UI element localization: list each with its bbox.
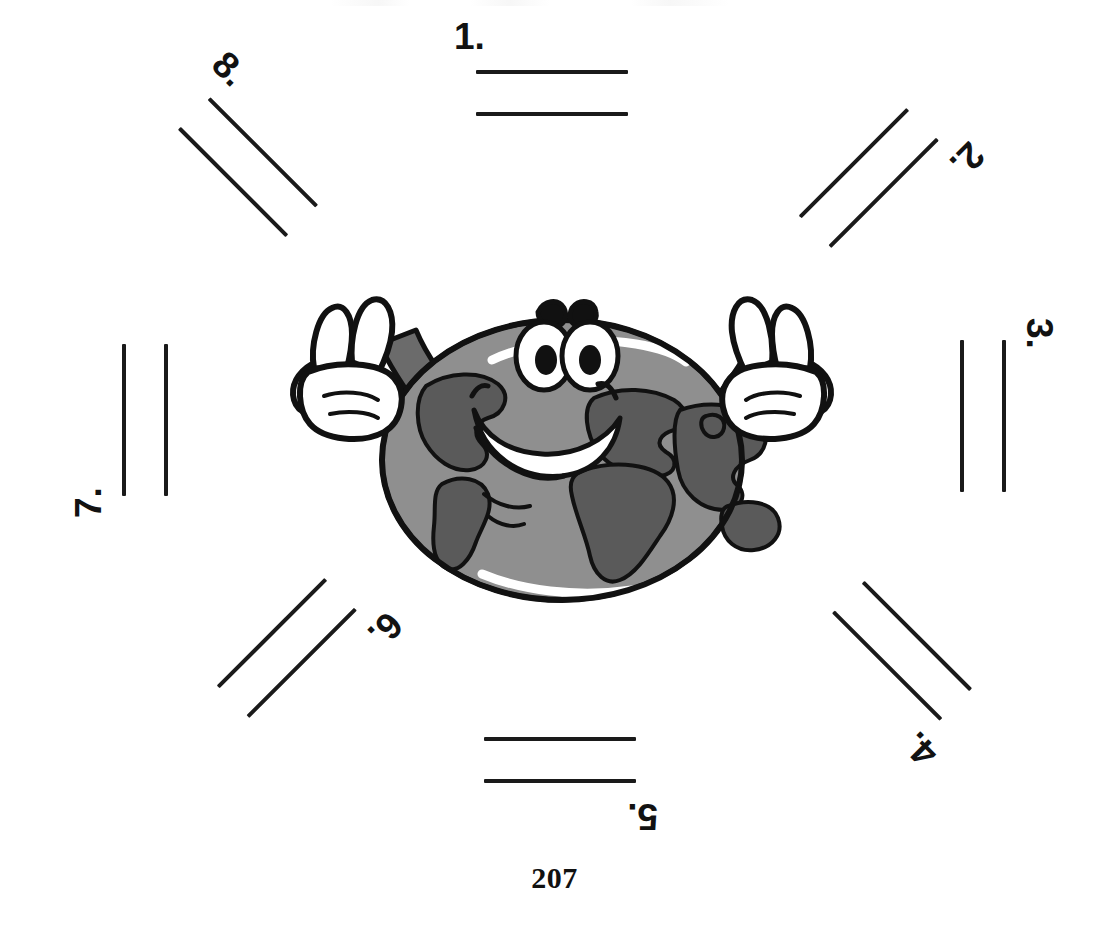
answer-blank-line[interactable] <box>829 138 939 248</box>
answer-item-7: 7. <box>70 318 190 518</box>
left-pupil <box>535 345 557 375</box>
item-number-label: 1. <box>454 18 498 55</box>
item-number-label: 5. <box>614 798 658 835</box>
answer-blank-line[interactable] <box>960 340 964 492</box>
answer-blank-lines[interactable] <box>217 578 357 718</box>
answer-blank-line[interactable] <box>832 611 942 721</box>
answer-blank-lines[interactable] <box>960 340 1006 492</box>
item-number-label: 3. <box>1021 318 1058 362</box>
item-number-label: 7. <box>70 474 107 518</box>
page-number: 207 <box>0 861 1109 895</box>
answer-blank-line[interactable] <box>484 779 636 783</box>
answer-blank-lines[interactable] <box>178 97 318 237</box>
answer-blank-line[interactable] <box>208 97 318 207</box>
answer-blank-line[interactable] <box>1002 340 1006 492</box>
item-number-label: 2. <box>934 136 991 193</box>
answer-blank-line[interactable] <box>247 608 357 718</box>
scan-artifact <box>330 0 730 6</box>
answer-blank-line[interactable] <box>164 344 168 496</box>
right-glove-v-sign <box>722 299 831 439</box>
answer-blank-line[interactable] <box>484 737 636 741</box>
left-glove-v-sign <box>293 299 402 439</box>
answer-blank-lines[interactable] <box>484 737 636 783</box>
answer-blank-line[interactable] <box>799 108 909 218</box>
item-number-label: 4. <box>887 716 944 773</box>
earth-globe-mascot <box>276 268 848 616</box>
answer-blank-line[interactable] <box>122 344 126 496</box>
answer-blank-lines[interactable] <box>799 108 939 248</box>
answer-blank-lines[interactable] <box>122 344 168 496</box>
answer-item-3: 3. <box>938 318 1058 518</box>
answer-item-1: 1. <box>454 18 654 138</box>
answer-blank-line[interactable] <box>217 578 327 688</box>
answer-blank-line[interactable] <box>178 127 288 237</box>
answer-blank-lines[interactable] <box>476 70 628 116</box>
item-number-label: 8. <box>206 45 263 102</box>
answer-item-8: 8. <box>147 45 373 271</box>
answer-blank-line[interactable] <box>862 581 972 691</box>
answer-blank-line[interactable] <box>476 112 628 116</box>
answer-item-5: 5. <box>458 715 658 835</box>
right-pupil <box>579 345 601 375</box>
island <box>701 415 724 437</box>
worksheet-page: 1.2.3.4.5.6.7.8. 207 <box>0 0 1109 937</box>
answer-blank-lines[interactable] <box>832 581 972 721</box>
answer-blank-line[interactable] <box>476 70 628 74</box>
